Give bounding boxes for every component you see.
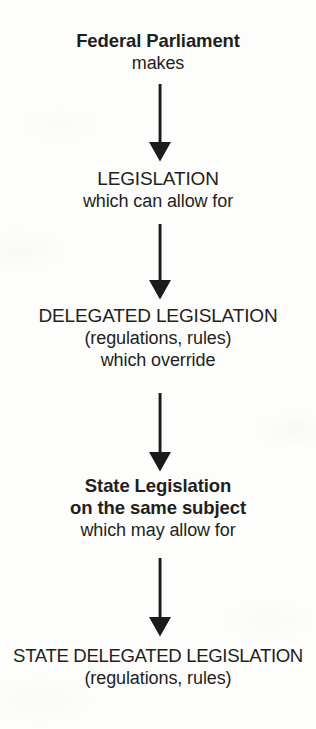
node-delegated-legislation-line-2: (regulations, rules) — [0, 327, 316, 349]
node-legislation-line-2: which can allow for — [0, 190, 316, 212]
node-federal-parliament-line-2: makes — [0, 52, 316, 74]
connector-arrow-1 — [146, 84, 174, 162]
node-legislation: LEGISLATION which can allow for — [0, 167, 316, 212]
connector-arrow-3 — [146, 393, 174, 472]
node-state-legislation-line-3: which may allow for — [0, 519, 316, 541]
node-delegated-legislation: DELEGATED LEGISLATION (regulations, rule… — [0, 304, 316, 371]
node-state-legislation-line-1: State Legislation — [0, 475, 316, 497]
node-delegated-legislation-line-3: which override — [0, 349, 316, 371]
node-state-delegated-legislation-line-1: STATE DELEGATED LEGISLATION — [0, 644, 316, 667]
node-federal-parliament: Federal Parliament makes — [0, 30, 316, 74]
node-legislation-line-1: LEGISLATION — [0, 167, 316, 190]
node-state-legislation-line-2: on the same subject — [0, 497, 316, 519]
flowchart-canvas: Federal Parliament makes LEGISLATION whi… — [0, 0, 316, 729]
node-state-legislation: State Legislation on the same subject wh… — [0, 475, 316, 541]
node-state-delegated-legislation-line-2: (regulations, rules) — [0, 667, 316, 689]
node-federal-parliament-line-1: Federal Parliament — [0, 30, 316, 52]
node-delegated-legislation-line-1: DELEGATED LEGISLATION — [0, 304, 316, 327]
node-state-delegated-legislation: STATE DELEGATED LEGISLATION (regulations… — [0, 644, 316, 689]
connector-arrow-2 — [146, 224, 174, 300]
connector-arrow-4 — [146, 558, 174, 637]
